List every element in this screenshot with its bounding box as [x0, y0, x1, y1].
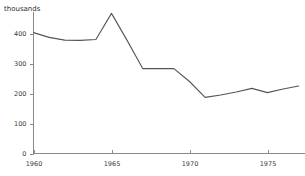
- x-tick-label: 1975: [260, 160, 277, 168]
- y-tick-label: 400: [14, 30, 26, 38]
- series-group: [34, 13, 299, 97]
- x-tick-label: 1960: [26, 160, 43, 168]
- y-tick-label: 300: [14, 60, 26, 68]
- unit-title-group: thousands: [4, 5, 41, 13]
- y-tick-label: 0: [22, 150, 26, 158]
- y-tick-label: 100: [14, 120, 26, 128]
- x-tick-group: 1960196519701975: [26, 150, 277, 168]
- x-tick-label: 1970: [182, 160, 199, 168]
- y-tick-group: 0100200300400: [14, 30, 33, 158]
- chart-svg: thousands 0100200300400 1960196519701975: [0, 0, 305, 176]
- chart-unit-title: thousands: [4, 5, 41, 13]
- data-line-thousands: [34, 13, 299, 97]
- y-tick-label: 200: [14, 90, 26, 98]
- x-tick-label: 1965: [104, 160, 121, 168]
- line-chart: thousands 0100200300400 1960196519701975: [0, 0, 305, 176]
